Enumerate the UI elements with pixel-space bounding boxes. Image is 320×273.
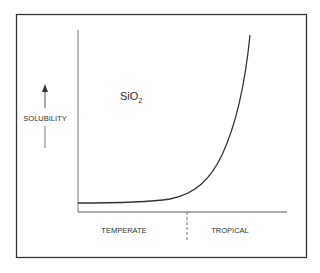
chart: SOLUBILITY SiO2 TEMPERATE TROPICAL xyxy=(0,0,320,273)
y-axis-label: SOLUBILITY xyxy=(23,114,66,123)
compound-label: SiO2 xyxy=(120,90,143,105)
region-label-temperate: TEMPERATE xyxy=(101,226,146,235)
up-arrow-icon xyxy=(42,84,48,92)
outer-frame xyxy=(17,15,307,258)
solubility-curve xyxy=(78,35,250,203)
region-label-tropical: TROPICAL xyxy=(211,226,249,235)
